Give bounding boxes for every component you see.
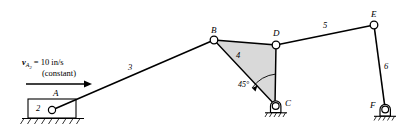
link-4-triangle <box>214 40 276 105</box>
link-label-2: 2 <box>36 104 40 113</box>
joint-label-b: B <box>211 26 217 35</box>
ground-support-c <box>265 101 287 117</box>
angle-label-45: 45° <box>238 81 249 89</box>
ground-support-f <box>374 104 396 120</box>
joint-b-pin <box>210 36 218 44</box>
link-label-3: 3 <box>128 63 132 72</box>
joint-d-pin <box>272 41 280 49</box>
ground-hatch-slider <box>21 119 85 125</box>
joint-label-a: A <box>53 89 59 98</box>
velocity-arrow <box>26 81 92 88</box>
link-label-6: 6 <box>384 62 388 71</box>
joint-a-pin <box>48 106 55 113</box>
link-label-4: 4 <box>236 51 240 60</box>
velocity-value: = 10 in/s <box>34 57 64 67</box>
velocity-subscript-sub: 2 <box>29 65 31 70</box>
joint-label-d: D <box>273 29 280 38</box>
joint-label-c: C <box>285 99 291 108</box>
velocity-constant-note: (constant) <box>42 69 76 78</box>
linkage-diagram-figure: vA2 = 10 in/s (constant) A 2 3 B 4 45° D… <box>0 0 412 133</box>
joint-label-e: E <box>371 10 377 19</box>
joint-e-pin <box>370 21 378 29</box>
link-label-5: 5 <box>323 21 327 30</box>
link-3-bar <box>52 40 214 110</box>
joint-label-f: F <box>370 101 376 110</box>
